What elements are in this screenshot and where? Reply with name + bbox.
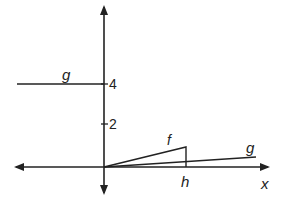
x-axis-label: x (260, 175, 269, 192)
curve-label-g-left: g (62, 66, 71, 83)
tick-label-2: 2 (109, 116, 117, 132)
curve-g-left: g (17, 66, 104, 84)
tick-label-4: 4 (109, 76, 117, 92)
curve-label-g-right: g (246, 139, 255, 156)
curve-label-f: f (167, 132, 173, 148)
diagram-canvas: 4 2 g f g h x (0, 0, 284, 205)
curve-g-right: g (104, 139, 256, 167)
marker-label-h: h (181, 173, 189, 190)
